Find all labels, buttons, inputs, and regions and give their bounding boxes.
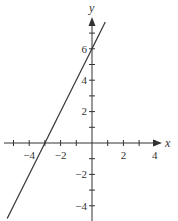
x-axis: −4 −2 2 4 x [4,136,171,161]
y-tick-label: 6 [82,43,88,55]
y-tick-label: 2 [82,105,88,117]
x-axis-label: x [164,136,171,150]
x-tick-label: −4 [23,149,35,161]
y-tick-label: −2 [75,168,87,180]
x-tick-label: 2 [121,149,127,161]
x-tick-label: −2 [55,149,67,161]
y-tick-label: 4 [82,74,88,86]
line-graph: −4 −2 2 4 x 6 4 2 −2 −4 y [0,0,178,221]
plotted-line [7,22,105,218]
y-axis-label: y [88,1,95,15]
y-axis-arrow-icon [89,17,96,26]
y-tick-label: −4 [75,200,87,212]
x-tick-label: 4 [152,149,158,161]
y-axis: 6 4 2 −2 −4 y [75,1,95,221]
